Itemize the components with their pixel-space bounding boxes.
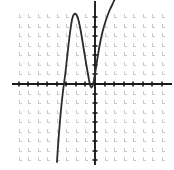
grid-cross xyxy=(28,24,32,28)
grid-cross xyxy=(105,119,109,123)
grid-cross xyxy=(66,110,70,114)
grid-cross xyxy=(124,100,128,104)
grid-cross xyxy=(114,62,118,66)
grid-cross xyxy=(19,138,23,142)
grid-cross xyxy=(162,71,166,75)
grid-cross xyxy=(57,52,61,56)
grid-cross xyxy=(124,14,128,18)
grid-cross xyxy=(133,129,137,133)
grid-cross xyxy=(114,71,118,75)
grid-cross xyxy=(38,119,42,123)
axes-layer xyxy=(12,1,172,165)
grid-cross xyxy=(47,43,51,47)
grid-cross xyxy=(19,52,23,56)
grid-cross xyxy=(76,24,80,28)
grid-cross xyxy=(76,91,80,95)
grid-cross xyxy=(38,148,42,152)
grid-cross xyxy=(47,157,51,161)
grid-cross xyxy=(152,33,156,37)
grid-cross xyxy=(162,119,166,123)
grid-cross xyxy=(152,91,156,95)
grid-cross xyxy=(28,14,32,18)
grid-cross xyxy=(85,14,89,18)
grid-cross xyxy=(105,71,109,75)
grid-cross xyxy=(105,43,109,47)
grid-cross xyxy=(28,100,32,104)
grid-cross xyxy=(76,157,80,161)
grid-cross xyxy=(105,110,109,114)
grid-cross xyxy=(124,157,128,161)
grid-cross xyxy=(114,157,118,161)
grid-cross xyxy=(124,52,128,56)
grid-cross xyxy=(152,43,156,47)
grid-cross xyxy=(66,138,70,142)
grid-cross xyxy=(133,71,137,75)
grid-cross xyxy=(85,148,89,152)
grid-cross xyxy=(66,148,70,152)
grid-cross xyxy=(47,71,51,75)
grid-cross xyxy=(66,91,70,95)
grid-cross xyxy=(47,119,51,123)
grid-cross xyxy=(105,148,109,152)
grid-cross xyxy=(162,91,166,95)
grid-cross xyxy=(76,43,80,47)
grid-cross xyxy=(124,119,128,123)
grid-cross xyxy=(124,33,128,37)
grid-cross xyxy=(19,62,23,66)
grid-cross xyxy=(85,91,89,95)
grid-cross xyxy=(162,52,166,56)
grid-cross xyxy=(85,119,89,123)
grid-cross xyxy=(152,148,156,152)
grid-cross xyxy=(47,91,51,95)
grid-cross xyxy=(57,71,61,75)
grid-cross xyxy=(105,138,109,142)
grid-cross xyxy=(28,119,32,123)
grid-cross xyxy=(114,24,118,28)
grid-cross xyxy=(47,62,51,66)
grid-cross xyxy=(162,33,166,37)
grid-cross xyxy=(114,138,118,142)
grid-cross xyxy=(76,138,80,142)
grid-cross xyxy=(143,157,147,161)
grid-cross xyxy=(19,14,23,18)
grid-cross xyxy=(152,71,156,75)
grid-cross xyxy=(162,110,166,114)
grid-cross xyxy=(143,91,147,95)
grid-cross xyxy=(38,43,42,47)
grid-cross xyxy=(19,24,23,28)
grid-cross xyxy=(76,52,80,56)
grid-cross xyxy=(66,119,70,123)
grid-cross xyxy=(76,148,80,152)
grid-cross xyxy=(133,138,137,142)
grid-cross xyxy=(66,33,70,37)
grid-cross xyxy=(38,33,42,37)
grid-cross xyxy=(114,33,118,37)
grid-cross xyxy=(28,138,32,142)
grid-cross xyxy=(152,129,156,133)
grid-cross xyxy=(85,43,89,47)
grid-cross xyxy=(38,129,42,133)
grid-cross xyxy=(85,33,89,37)
grid-cross xyxy=(57,24,61,28)
grid-cross xyxy=(85,100,89,104)
grid-cross xyxy=(152,52,156,56)
grid-cross xyxy=(143,24,147,28)
grid-cross xyxy=(28,91,32,95)
grid-cross xyxy=(114,129,118,133)
grid-cross xyxy=(38,14,42,18)
grid-cross xyxy=(162,62,166,66)
grid-cross xyxy=(28,62,32,66)
grid-cross xyxy=(28,52,32,56)
grid-cross xyxy=(28,33,32,37)
grid-cross xyxy=(162,148,166,152)
grid-cross xyxy=(85,129,89,133)
grid-cross xyxy=(143,129,147,133)
grid-cross xyxy=(28,71,32,75)
grid-cross xyxy=(124,43,128,47)
grid-cross xyxy=(114,91,118,95)
grid-cross xyxy=(114,148,118,152)
grid-cross xyxy=(124,129,128,133)
grid-cross xyxy=(66,157,70,161)
grid-cross xyxy=(38,110,42,114)
grid-cross xyxy=(162,138,166,142)
